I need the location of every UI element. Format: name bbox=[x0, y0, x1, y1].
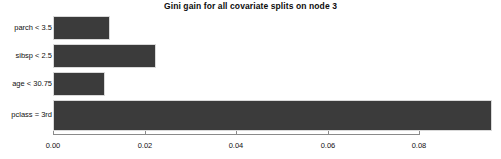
x-axis-tick bbox=[145, 131, 146, 135]
x-axis-tick-label: 0.06 bbox=[308, 142, 348, 150]
x-axis-tick bbox=[236, 131, 237, 135]
x-axis-tick-label: 0.00 bbox=[33, 142, 73, 150]
gini-gain-bar-chart: Gini gain for all covariate splits on no… bbox=[0, 0, 501, 159]
x-axis-tick-label: 0.04 bbox=[216, 142, 256, 150]
bar-category-label: pclass = 3rd bbox=[11, 111, 52, 119]
plot-area: parch < 3.5 sibsp < 2.5 age < 30.75 pcla… bbox=[0, 0, 501, 159]
x-axis-tick bbox=[53, 131, 54, 135]
bar-category-label: sibsp < 2.5 bbox=[16, 52, 52, 60]
bar-category-label: parch < 3.5 bbox=[14, 24, 52, 32]
bar-rect bbox=[53, 100, 492, 131]
x-axis-tick-label: 0.02 bbox=[125, 142, 165, 150]
bar-rect bbox=[53, 16, 110, 40]
bar-rect bbox=[53, 44, 156, 68]
bar-category-label: age < 30.75 bbox=[12, 80, 52, 88]
x-axis-tick-label: 0.08 bbox=[399, 142, 439, 150]
bar-row: pclass = 3rd bbox=[0, 100, 501, 131]
x-axis-tick bbox=[419, 131, 420, 135]
bar-row: age < 30.75 bbox=[0, 72, 501, 96]
bar-rect bbox=[53, 72, 105, 96]
bar-row: parch < 3.5 bbox=[0, 16, 501, 40]
x-axis-tick bbox=[328, 131, 329, 135]
bar-row: sibsp < 2.5 bbox=[0, 44, 501, 68]
